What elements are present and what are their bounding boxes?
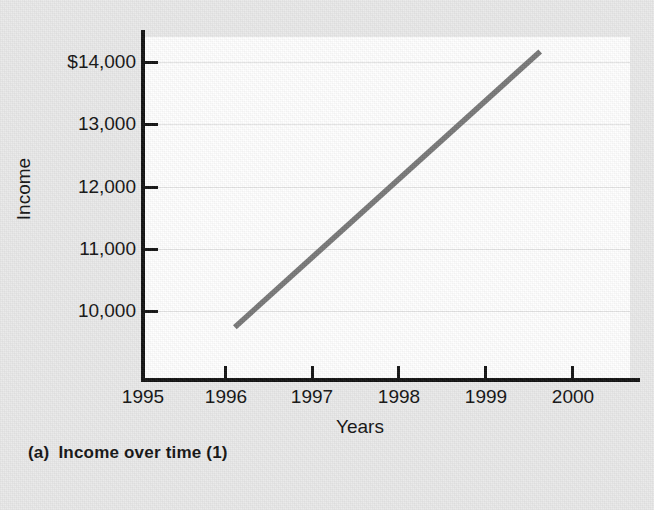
x-axis-title: Years bbox=[290, 416, 430, 438]
x-tick-2000 bbox=[571, 366, 574, 379]
x-tick-1998 bbox=[397, 366, 400, 379]
gridline-14000 bbox=[145, 62, 630, 63]
y-tick-11000 bbox=[145, 248, 158, 251]
figure-caption-tag: (a) bbox=[28, 443, 49, 462]
gridline-11000 bbox=[145, 249, 630, 250]
x-tick-1997 bbox=[311, 366, 314, 379]
x-tick-label-2000: 2000 bbox=[533, 386, 613, 408]
figure-caption: (a)Income over time (1) bbox=[28, 443, 228, 463]
x-tick-label-1995: 1995 bbox=[103, 386, 183, 408]
y-axis-line bbox=[141, 30, 145, 382]
x-axis-line bbox=[141, 378, 640, 382]
figure-caption-text: Income over time (1) bbox=[58, 443, 227, 462]
y-tick-12000 bbox=[145, 186, 158, 189]
gridline-13000 bbox=[145, 124, 630, 125]
y-tick-14000 bbox=[145, 61, 158, 64]
x-tick-1999 bbox=[484, 366, 487, 379]
figure-panel: $14,000 13,000 12,000 11,000 10,000 1995… bbox=[0, 0, 654, 510]
y-axis-title: Income bbox=[13, 139, 35, 239]
x-tick-label-1997: 1997 bbox=[272, 386, 352, 408]
gridline-12000 bbox=[145, 187, 630, 188]
y-tick-10000 bbox=[145, 310, 158, 313]
gridline-10000 bbox=[145, 311, 630, 312]
x-tick-label-1998: 1998 bbox=[359, 386, 439, 408]
y-tick-label-11000: 11,000 bbox=[0, 238, 136, 260]
y-tick-label-10000: 10,000 bbox=[0, 300, 136, 322]
x-tick-label-1996: 1996 bbox=[186, 386, 266, 408]
y-tick-13000 bbox=[145, 123, 158, 126]
y-tick-label-13000: 13,000 bbox=[0, 113, 136, 135]
x-tick-label-1999: 1999 bbox=[446, 386, 526, 408]
x-tick-1996 bbox=[224, 366, 227, 379]
y-tick-label-14000: $14,000 bbox=[0, 51, 136, 73]
plot-area bbox=[145, 37, 630, 380]
